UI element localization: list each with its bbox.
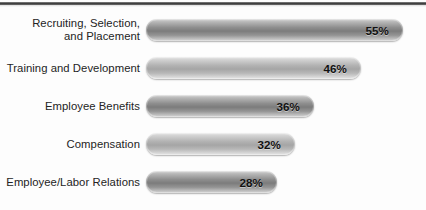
bar-track: 36% (146, 87, 426, 125)
bar-training-and-development[interactable]: 46% (146, 57, 361, 79)
chart-row: Employee Benefits 36% (0, 87, 426, 125)
category-label: Employee Benefits (0, 100, 146, 113)
bar-track: 28% (146, 163, 426, 201)
category-label: Employee/Labor Relations (0, 176, 146, 189)
bar-track: 55% (146, 11, 426, 49)
bar-value-label: 55% (365, 24, 403, 37)
chart-rows: Recruiting, Selection, and Placement 55%… (0, 11, 426, 201)
bar-compensation[interactable]: 32% (146, 133, 295, 155)
bar-value-label: 28% (239, 176, 277, 189)
chart-row: Training and Development 46% (0, 49, 426, 87)
bar-recruiting-selection-and-placement[interactable]: 55% (146, 19, 403, 41)
bar-track: 32% (146, 125, 426, 163)
bar-employee-labor-relations[interactable]: 28% (146, 171, 277, 193)
category-label: Recruiting, Selection, and Placement (0, 17, 146, 42)
bar-value-label: 46% (323, 62, 361, 75)
source-note-clipped (8, 203, 338, 210)
bar-employee-benefits[interactable]: 36% (146, 95, 314, 117)
bar-chart: Recruiting, Selection, and Placement 55%… (0, 0, 426, 210)
bar-value-label: 36% (276, 100, 314, 113)
chart-row: Compensation 32% (0, 125, 426, 163)
top-divider-shadow (0, 5, 426, 7)
chart-row: Employee/Labor Relations 28% (0, 163, 426, 201)
bar-track: 46% (146, 49, 426, 87)
bar-value-label: 32% (257, 138, 295, 151)
category-label: Training and Development (0, 62, 146, 75)
category-label: Compensation (0, 138, 146, 151)
chart-row: Recruiting, Selection, and Placement 55% (0, 11, 426, 49)
